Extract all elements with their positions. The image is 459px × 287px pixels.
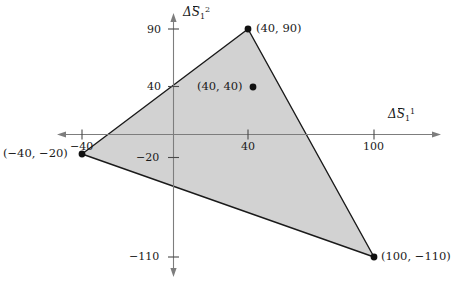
x-axis-arrow-left bbox=[57, 131, 66, 137]
plot-canvas bbox=[0, 0, 459, 287]
x-tick-label-100: 100 bbox=[363, 141, 384, 152]
feasible-region-polygon bbox=[82, 29, 374, 257]
data-point-interior bbox=[250, 84, 257, 91]
data-point-vertex-top bbox=[245, 26, 252, 33]
y-axis-arrow-up bbox=[170, 13, 176, 22]
y-axis-label-delta: Δ bbox=[183, 5, 192, 19]
point-label-vertex-bottom-right: (100, −110) bbox=[381, 251, 451, 263]
y-tick-label-90: 90 bbox=[147, 24, 161, 35]
y-tick-label-neg110: −110 bbox=[129, 251, 159, 262]
y-axis-arrow-down bbox=[170, 268, 176, 277]
y-axis-label: ΔS12 bbox=[183, 6, 210, 21]
x-axis-label-symbol: S bbox=[397, 107, 405, 121]
x-axis-label-superscript: 1 bbox=[410, 107, 415, 116]
overbar bbox=[193, 6, 198, 7]
x-axis-arrow-right bbox=[432, 131, 441, 137]
plot-figure: ΔS12 ΔS11 90 40 −20 −110 −40 40 100 (40,… bbox=[0, 0, 459, 287]
overbar bbox=[398, 108, 403, 109]
x-tick-label-neg40: −40 bbox=[70, 141, 93, 152]
y-tick-label-40: 40 bbox=[147, 81, 161, 92]
x-tick-label-40: 40 bbox=[241, 141, 255, 152]
point-label-interior: (40, 40) bbox=[197, 81, 243, 93]
data-point-vertex-bottom-right bbox=[371, 254, 378, 261]
y-axis-label-symbol-bar: S bbox=[192, 6, 200, 18]
y-axis-label-superscript: 2 bbox=[205, 5, 210, 14]
y-tick-label-neg20: −20 bbox=[136, 152, 159, 163]
x-axis-label-delta: Δ bbox=[388, 107, 397, 121]
x-axis-label-symbol-bar: S bbox=[397, 108, 405, 120]
point-label-vertex-left: (−40, −20) bbox=[3, 148, 68, 160]
point-label-vertex-top: (40, 90) bbox=[256, 23, 302, 35]
y-axis-label-symbol: S bbox=[192, 5, 200, 19]
x-axis-label: ΔS11 bbox=[388, 108, 415, 123]
